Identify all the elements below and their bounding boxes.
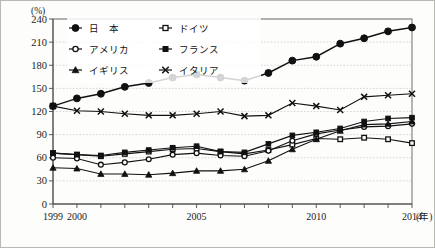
- data-point-marker: [73, 95, 80, 102]
- y-tick-label: 210: [31, 37, 47, 48]
- legend-label: 日 本: [89, 23, 119, 34]
- x-tick-label: 2005: [187, 211, 207, 222]
- y-tick-label: 180: [31, 60, 47, 71]
- data-point-marker: [386, 137, 391, 142]
- chart-canvas: 0306090120150180210240199920002005201020…: [1, 1, 435, 248]
- series-line: [53, 138, 412, 157]
- x-axis-unit-label: (年): [416, 211, 432, 223]
- data-point-marker: [163, 47, 168, 52]
- data-point-marker: [410, 141, 415, 146]
- data-point-marker: [146, 148, 151, 153]
- data-point-marker: [123, 150, 128, 155]
- data-point-marker: [146, 157, 151, 162]
- legend-label: イギリス: [89, 65, 129, 76]
- data-point-marker: [289, 57, 296, 64]
- y-tick-label: 0: [42, 199, 47, 210]
- legend-label: イタリア: [179, 65, 219, 76]
- x-tick-label: 1999: [43, 211, 63, 222]
- chart-page-frame: 0306090120150180210240199920002005201020…: [0, 0, 435, 248]
- data-point-marker: [290, 133, 295, 138]
- legend-label: フランス: [179, 44, 219, 55]
- data-point-marker: [194, 151, 199, 156]
- data-point-marker: [313, 53, 320, 60]
- data-point-marker: [163, 26, 168, 31]
- data-point-marker: [338, 137, 343, 142]
- series-2: [51, 121, 415, 167]
- series-line: [53, 118, 412, 156]
- series-line: [53, 122, 412, 175]
- data-point-marker: [337, 40, 344, 47]
- series-3: [51, 115, 415, 157]
- data-point-marker: [361, 35, 368, 42]
- x-tick-label: 2000: [67, 211, 87, 222]
- data-point-marker: [314, 130, 319, 135]
- data-point-marker: [266, 142, 271, 147]
- data-point-marker: [385, 28, 392, 35]
- data-point-marker: [122, 160, 127, 165]
- data-point-marker: [290, 138, 295, 143]
- data-point-marker: [98, 162, 103, 167]
- legend-label: ドイツ: [179, 23, 209, 34]
- data-point-marker: [73, 46, 78, 51]
- data-point-marker: [218, 149, 223, 154]
- data-point-marker: [266, 148, 271, 153]
- data-point-marker: [362, 135, 367, 140]
- data-point-marker: [99, 153, 104, 158]
- y-tick-label: 120: [31, 106, 47, 117]
- data-point-marker: [170, 145, 175, 150]
- data-point-marker: [75, 152, 80, 157]
- data-point-marker: [51, 155, 56, 160]
- data-point-marker: [72, 25, 79, 32]
- legend-label: アメリカ: [89, 44, 129, 55]
- data-point-marker: [409, 24, 416, 31]
- series-5: [50, 91, 415, 119]
- data-point-marker: [194, 144, 199, 149]
- line-chart: 0306090120150180210240199920002005201020…: [1, 1, 435, 248]
- y-tick-label: 60: [37, 152, 48, 163]
- data-point-marker: [265, 158, 271, 164]
- data-point-marker: [121, 83, 128, 90]
- y-axis-unit-label: (%): [31, 6, 45, 17]
- data-point-marker: [97, 90, 104, 97]
- data-point-marker: [265, 70, 272, 77]
- y-tick-label: 150: [31, 83, 47, 94]
- y-tick-label: 90: [37, 129, 48, 140]
- series-line: [53, 124, 412, 165]
- y-tick-label: 30: [37, 175, 48, 186]
- legend: 日 本ドイツアメリカフランスイギリスイタリア: [67, 16, 261, 83]
- data-point-marker: [242, 150, 247, 155]
- data-point-marker: [51, 151, 56, 156]
- x-tick-label: 2010: [306, 211, 326, 222]
- series-line: [53, 94, 412, 116]
- data-point-marker: [170, 152, 175, 157]
